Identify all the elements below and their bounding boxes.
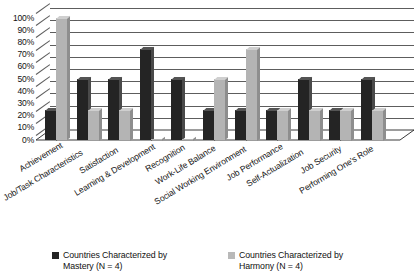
bar-harmony [119,110,130,141]
bar-face [203,110,214,141]
bar-face [140,49,151,141]
bar-group [329,8,351,140]
bar-harmony [277,110,288,141]
y-axis-tick-70: 70% [18,50,34,59]
bar-group [140,8,162,140]
y-axis-tick-40: 40% [18,87,34,96]
bar-group [298,8,320,140]
x-axis-category-labels: AchievementJob/Task CharacteristicsSatis… [0,140,420,228]
bar-mastery [171,79,182,140]
bar-face [372,110,383,141]
bar-mastery [203,110,214,141]
bar-face [214,79,225,140]
bar-face [45,110,56,141]
y-axis-labels: 100%90%80%70%60%50%40%30%20%10%0% [0,8,34,140]
bar-mastery [140,49,151,141]
plot-area [36,8,414,140]
bar-face [171,79,182,140]
bar-harmony [340,110,351,141]
bar-top-3d [309,108,323,111]
bar-face [119,110,130,141]
bar-face [246,49,257,141]
y-axis-tick-90: 90% [18,26,34,35]
y-axis-tick-10: 10% [18,123,34,132]
bar-side-3d [288,107,291,140]
bar-harmony [214,79,225,140]
bar-face [361,79,372,140]
bar-mastery [77,79,88,140]
y-axis-tick-20: 20% [18,111,34,120]
bar-top-3d [88,108,102,111]
legend-label: Countries Characterized byHarmony (N = 4… [239,250,357,271]
bar-groups [36,8,414,140]
bar-chart: 100%90%80%70%60%50%40%30%20%10%0% Achiev… [0,0,420,272]
bar-face [309,110,320,141]
bar-group [235,8,257,140]
bar-side-3d [182,77,185,140]
y-axis-tick-30: 30% [18,99,34,108]
bar-group [108,8,130,140]
bar-side-3d [151,46,154,140]
bar-side-3d [257,46,260,140]
bar-harmony [309,110,320,141]
bar-face [298,79,309,140]
bar-mastery [108,79,119,140]
bar-face [266,110,277,141]
bar-face [340,110,351,141]
harmony-swatch [228,252,235,259]
y-axis-tick-50: 50% [18,75,34,84]
y-axis-tick-60: 60% [18,62,34,71]
bar-harmony [372,110,383,141]
bar-mastery [235,110,246,141]
bar-face [77,79,88,140]
mastery-swatch [52,252,59,259]
bar-harmony [88,110,99,141]
bar-face [235,110,246,141]
bar-side-3d [320,107,323,140]
bar-mastery [45,110,56,141]
bar-mastery [361,79,372,140]
y-axis-tick-100: 100% [13,14,34,23]
bar-group [361,8,383,140]
bar-face [108,79,119,140]
bar-group [203,8,225,140]
bar-side-3d [99,107,102,140]
bar-face [88,110,99,141]
bar-harmony [56,18,67,140]
bar-side-3d [67,16,70,140]
bar-harmony [246,49,257,141]
bar-group [266,8,288,140]
bar-mastery [266,110,277,141]
legend-label: Countries Characterized byMastery (N = 4… [63,250,181,271]
chart-legend: Countries Characterized byMastery (N = 4… [0,244,420,272]
bar-side-3d [130,107,133,140]
bar-mastery [329,110,340,141]
bar-group [45,8,67,140]
legend-item-mastery[interactable]: Countries Characterized byMastery (N = 4… [52,250,181,271]
bar-group [171,8,193,140]
bar-face [277,110,288,141]
bar-side-3d [383,107,386,140]
bar-top-3d [246,47,260,50]
legend-item-harmony[interactable]: Countries Characterized byHarmony (N = 4… [228,250,357,271]
bar-top-3d [140,47,154,50]
y-axis-tick-80: 80% [18,38,34,47]
bar-face [329,110,340,141]
bar-group [77,8,99,140]
bar-mastery [298,79,309,140]
bar-side-3d [351,107,354,140]
bar-face [56,18,67,140]
bar-side-3d [225,77,228,140]
